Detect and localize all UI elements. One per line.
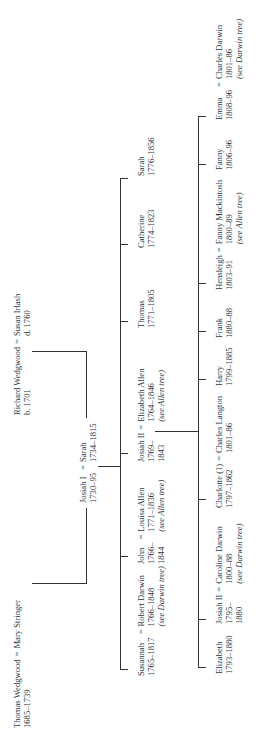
connector-tick (120, 321, 128, 322)
person-elizabeth: Elizabeth 1793–1880 (214, 635, 234, 674)
marriage-symbol: = (12, 649, 22, 660)
person-thomas: Thomas 1771–1805 (136, 289, 156, 328)
spouse-name: Susan Irlash (12, 294, 22, 336)
person-emma: Emma 1808–96 = Charles Darwin 1801–86 (s… (214, 19, 244, 120)
person-harry: Harry 1799–1885 (214, 347, 234, 386)
connector-tick (120, 556, 128, 557)
connector-tick (120, 244, 128, 245)
person-josiah-iii: Josiah II 1795– 1880 = Caroline Darwin 1… (214, 523, 244, 624)
couple-richard-susan: Richard Wedgwood b. 1701 = Susan Irlash … (12, 294, 32, 415)
person-charlotte: Charlotte (1) 1797–1862 = Charles Langto… (214, 396, 234, 508)
family-tree-diagram: Thomas Wedgwood 1685–1739 = Mary Stringe… (0, 0, 273, 736)
connector-tick (198, 499, 206, 500)
connector-tick (198, 379, 206, 380)
connector-tick (198, 667, 206, 668)
spouse-dates: d. 1760 (22, 294, 32, 336)
connector-line (98, 466, 120, 467)
person-name: Richard Wedgwood (12, 347, 22, 415)
person-fanny: Fanny 1806–96 (214, 140, 234, 170)
connector-line (155, 431, 198, 432)
spouse-name: Mary Stringer (12, 600, 22, 648)
couple-thomas-mary: Thomas Wedgwood 1685–1739 = Mary Stringe… (12, 600, 32, 728)
person-susannah: Susannah 1765–1817 = Robert Darwin 1766–… (136, 566, 166, 676)
person-dates: b. 1701 (22, 347, 32, 415)
connector-tick (198, 331, 206, 332)
couple-josiah-sarah: Josiah I 1730–95 = Sarah 1734–1815 (78, 423, 98, 503)
generation-2-bar (120, 178, 121, 670)
marriage-symbol: = (78, 462, 88, 473)
connector-tick (120, 669, 128, 670)
person-josiah-ii: Josiah II 1769– 1843 = Elizabeth Allen 1… (136, 369, 166, 462)
connector-line (86, 351, 87, 418)
connector-line (32, 583, 86, 584)
connector-tick (120, 453, 128, 454)
spouse-dates: 1734–1815 (88, 423, 98, 462)
person-hensleigh: Hensleigh 1803–91 = Fanny Mackintosh 180… (214, 180, 244, 290)
connector-tick (198, 164, 206, 165)
generation-3-bar (198, 116, 199, 668)
connector-tick (198, 283, 206, 284)
person-catherine: Catherine 1774–1823 (136, 209, 156, 248)
connector-tick (198, 619, 206, 620)
person-john: John 1766– 1844 = Louisa Allen 1771–1836… (136, 480, 166, 564)
connector-line (32, 351, 86, 352)
connector-tick (120, 178, 128, 179)
connector-line (86, 508, 87, 584)
spouse-name: Sarah (78, 423, 88, 462)
person-name: Thomas Wedgwood (12, 659, 22, 728)
person-name: Josiah I (78, 473, 88, 503)
person-frank: Frank 1880–88 (214, 308, 234, 338)
person-dates: 1730–95 (88, 473, 98, 503)
connector-tick (198, 116, 206, 117)
marriage-symbol: = (12, 336, 22, 347)
person-sarah: Sarah 1776–1856 (136, 137, 156, 176)
person-dates: 1685–1739 (22, 659, 32, 728)
